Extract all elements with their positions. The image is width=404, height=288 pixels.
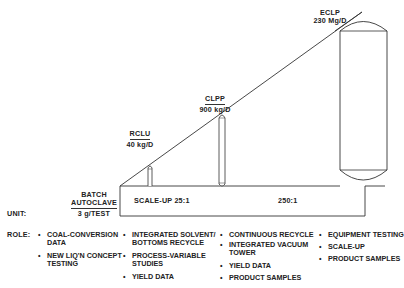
unit-row-label: UNIT:	[7, 210, 26, 218]
role-item: •PRODUCT SAMPLES	[319, 255, 404, 263]
rclu-label: RCLU 40 kg/D	[100, 130, 180, 149]
bullet-icon: •	[220, 274, 223, 282]
bullet-icon: •	[220, 231, 223, 239]
role-item: •NEW LIQ'N CONCEPTTESTING	[38, 252, 122, 269]
role-item: •CONTINUOUS RECYCLE	[220, 231, 314, 239]
role-row-label: ROLE:	[7, 231, 30, 239]
bullet-icon: •	[38, 231, 41, 239]
eclp-vessel-icon	[340, 22, 387, 181]
bullet-icon: •	[319, 255, 322, 263]
bullet-icon: •	[123, 252, 126, 260]
role-item: •COAL-CONVERSIONDATA	[38, 231, 122, 248]
scale-up-250-label: 250:1	[278, 197, 297, 205]
role-item: •SCALE-UP	[319, 243, 404, 251]
eclp-label: ECLP 230 Mg/D	[290, 9, 370, 25]
role-item: •PROCESS-VARIABLESTUDIES	[123, 252, 216, 269]
clpp-vessel-icon	[219, 115, 225, 186]
batch-capacity: 3 g/TEST	[68, 210, 120, 218]
role-item: •INTEGRATED SOLVENT/BOTTOMS RECYCLE	[123, 231, 216, 248]
role-item: •PRODUCT SAMPLES	[220, 274, 314, 282]
role-item: •YIELD DATA	[123, 273, 216, 281]
roles-batch-list: •COAL-CONVERSIONDATA •NEW LIQ'N CONCEPTT…	[38, 231, 122, 273]
bullet-icon: •	[220, 241, 223, 249]
roles-rclu-list: •INTEGRATED SOLVENT/BOTTOMS RECYCLE •PRO…	[123, 231, 216, 286]
clpp-label: CLPP 900 kg/D	[175, 95, 255, 114]
role-item: •EQUIPMENT TESTING	[319, 231, 404, 239]
roles-eclp-list: •EQUIPMENT TESTING •SCALE-UP •PRODUCT SA…	[319, 231, 404, 267]
eclp-capacity: 230 Mg/D	[290, 17, 370, 25]
role-item: •INTEGRATED VACUUMTOWER	[220, 241, 314, 258]
role-item: •YIELD DATA	[220, 262, 314, 270]
bullet-icon: •	[123, 273, 126, 281]
bullet-icon: •	[319, 243, 322, 251]
rclu-vessel-icon	[148, 166, 152, 186]
rclu-name: RCLU	[130, 130, 151, 140]
scale-up-25-label: SCALE-UP 25:1	[134, 197, 190, 205]
bullet-icon: •	[220, 262, 223, 270]
roles-clpp-list: •CONTINUOUS RECYCLE •INTEGRATED VACUUMTO…	[220, 231, 314, 287]
bullet-icon: •	[38, 252, 41, 260]
clpp-name: CLPP	[205, 95, 225, 105]
clpp-capacity: 900 kg/D	[175, 106, 255, 114]
batch-autoclave-label: BATCH AUTOCLAVE 3 g/TEST	[68, 191, 120, 218]
batch-name-line2: AUTOCLAVE	[71, 199, 117, 209]
rclu-capacity: 40 kg/D	[100, 141, 180, 149]
bullet-icon: •	[319, 231, 322, 239]
bullet-icon: •	[123, 231, 126, 239]
